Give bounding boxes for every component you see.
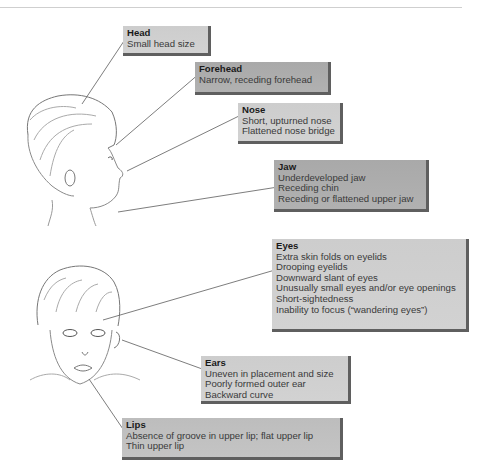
label-ears: Ears Uneven in placement and size Poorly…: [201, 356, 351, 404]
label-title: Eyes: [276, 241, 462, 252]
leader-line-eyes: [103, 270, 275, 320]
leader-line-jaw: [118, 187, 278, 212]
label-title: Ears: [205, 358, 344, 369]
leader-line-head: [82, 35, 128, 104]
label-title: Lips: [126, 420, 336, 431]
profile-head-sketch: [27, 95, 122, 226]
label-forehead: Forehead Narrow, receding forehead: [195, 62, 331, 95]
label-lips: Lips Absence of groove in upper lip; fla…: [122, 418, 343, 460]
label-title: Head: [127, 28, 204, 39]
label-line: Thin upper lip: [126, 441, 336, 452]
frontal-head-sketch: [30, 266, 140, 384]
label-line: Backward curve: [205, 390, 344, 401]
label-line: Short-sightedness: [276, 294, 462, 305]
label-line: Inability to focus (“wandering eyes”): [276, 305, 462, 316]
label-jaw: Jaw Underdeveloped jaw Receding chin Rec…: [274, 160, 429, 212]
label-title: Forehead: [199, 64, 324, 75]
leader-line-ears: [122, 340, 205, 370]
label-line: Small head size: [127, 39, 204, 50]
label-line: Flattened nose bridge: [242, 126, 336, 137]
label-head: Head Small head size: [123, 26, 211, 56]
leader-line-forehead: [116, 73, 200, 145]
leader-line-nose: [127, 115, 241, 171]
label-title: Nose: [242, 105, 336, 116]
leader-line-lips: [89, 379, 125, 432]
label-title: Jaw: [278, 162, 422, 173]
label-eyes: Eyes Extra skin folds on eyelids Droopin…: [272, 239, 469, 332]
label-line: Receding or flattened upper jaw: [278, 194, 422, 205]
label-nose: Nose Short, upturned nose Flattened nose…: [238, 103, 343, 144]
label-line: Narrow, receding forehead: [199, 75, 324, 86]
